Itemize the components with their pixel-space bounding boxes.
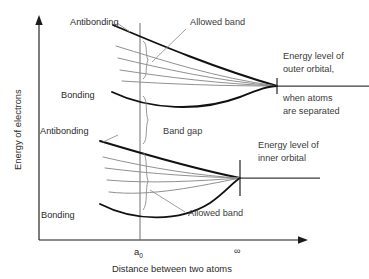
band-gap-label: Band gap <box>163 126 202 136</box>
bonding-upper-label: Bonding <box>61 90 95 100</box>
allowed-band-lower-brace <box>143 152 148 210</box>
inner-inner-curve-3 <box>107 178 240 182</box>
outer-bonding-curve <box>112 86 277 107</box>
outer-level-label-line1: Energy level of <box>283 51 344 61</box>
leader-line-group <box>103 23 186 212</box>
inner-antibonding-curve <box>100 141 240 178</box>
outer-level-label-line2: outer orbital, <box>283 64 334 74</box>
antibonding-lower-leader <box>103 135 118 142</box>
outer-level-label-line4: are separated <box>283 106 340 116</box>
band-diagram-figure: Antibonding Bonding Antibonding Bonding … <box>0 0 369 279</box>
brace-group <box>143 41 148 210</box>
outer-antibonding-curve <box>113 25 277 86</box>
x-tick-infinity-label: ∞ <box>234 245 241 256</box>
allowed-band-lower-leader <box>150 190 185 212</box>
y-axis-label: Energy of electrons <box>12 89 23 170</box>
x-tick-a0-label: a0 <box>134 246 143 259</box>
inner-level-label-line2: inner orbital <box>258 153 306 163</box>
bonding-lower-label: Bonding <box>41 210 75 220</box>
allowed-band-lower-label: Allowed band <box>188 208 243 218</box>
y-axis-arrowhead <box>35 15 42 25</box>
antibonding-upper-label: Antibonding <box>70 17 119 27</box>
antibonding-lower-label: Antibonding <box>40 126 89 136</box>
inner-inner-curve-4 <box>109 178 240 193</box>
outer-level-label-line3: when atoms <box>282 93 333 103</box>
x-axis-label: Distance between two atoms <box>112 263 232 274</box>
allowed-band-upper-label: Allowed band <box>190 17 245 27</box>
x-axis-arrowhead <box>298 236 308 243</box>
allowed-band-upper-leader <box>152 29 186 62</box>
inner-level-label-line1: Energy level of <box>258 140 319 150</box>
band-diagram-svg: Antibonding Bonding Antibonding Bonding … <box>0 0 369 279</box>
